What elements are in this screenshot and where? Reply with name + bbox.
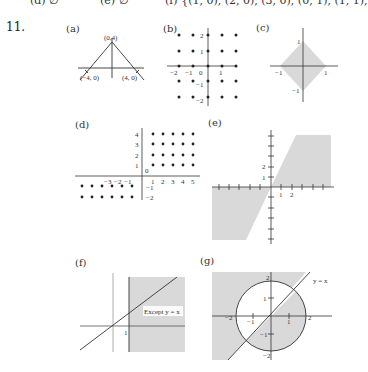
panel-d-ytick: 2 <box>135 152 139 160</box>
panel-d-ytick: −2 <box>146 194 154 202</box>
panel-g-ytick: −1 <box>260 331 268 339</box>
panel-d-xtick: −3 <box>104 178 112 186</box>
panel-e-xtick: 1 <box>279 191 283 199</box>
panel-d-origin: 0 <box>145 167 149 175</box>
panel-a-left-label: (−4, 0) <box>80 74 100 82</box>
panel-g-xtick: −1 <box>247 318 255 326</box>
panel-c-xtick: 1 <box>324 69 328 77</box>
panel-a-right-label: (4, 0) <box>122 74 138 82</box>
panel-d-xtick: 5 <box>191 178 195 186</box>
panel-g-ytick: −2 <box>263 352 271 360</box>
panel-b-xtick: −1 <box>185 69 193 77</box>
panel-g-ytick: 1 <box>263 295 267 303</box>
panel-c-ytick: −1 <box>292 87 300 95</box>
panel-b-ytick: 1 <box>200 48 204 56</box>
panel-e-graph <box>212 130 334 244</box>
panel-c-ytick: 1 <box>297 38 301 46</box>
panel-a-apex-label: (0,4) <box>104 34 118 42</box>
panel-f-tick: 1 <box>124 329 128 337</box>
panel-d-ytick: 3 <box>135 141 139 149</box>
panel-b-ytick: −1 <box>196 81 204 89</box>
panel-d-ytick: 1 <box>135 162 139 170</box>
panel-b-xtick: 1 <box>219 69 223 77</box>
panel-d-xtick: 2 <box>161 178 165 186</box>
panel-c-xtick: −1 <box>275 69 283 77</box>
panel-b-ytick: −2 <box>196 97 204 105</box>
panel-d-ytick: −1 <box>146 184 154 192</box>
panel-d-xtick: 4 <box>181 178 185 186</box>
panel-b-xtick: −2 <box>170 69 178 77</box>
panel-g-xtick: 1 <box>287 318 291 326</box>
panel-d-ytick: 4 <box>135 131 139 139</box>
panel-g-ytick: 2 <box>266 274 270 282</box>
panel-e-ytick: 2 <box>262 163 266 171</box>
panel-e-xtick: 2 <box>290 191 294 199</box>
panel-c-graph <box>270 28 338 102</box>
panel-g-line-label: y = x <box>313 277 328 285</box>
panel-b-ytick: 2 <box>200 32 204 40</box>
panel-b-xtick: 0 <box>199 69 203 77</box>
panel-g-xtick: −2 <box>225 314 233 322</box>
panel-e-ytick: 1 <box>262 174 266 182</box>
panel-d-xtick: −2 <box>114 178 122 186</box>
panel-g-xtick: 2 <box>308 314 312 322</box>
panel-d-xtick: 3 <box>171 178 175 186</box>
panel-f-note: Except y = x <box>144 308 180 316</box>
panel-d-xtick: −1 <box>124 178 132 186</box>
